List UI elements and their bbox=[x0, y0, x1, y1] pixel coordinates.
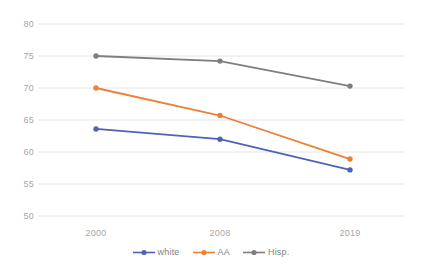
legend-swatch-hisp-icon bbox=[243, 248, 265, 257]
data-point[interactable] bbox=[93, 53, 98, 58]
legend-label-hisp: Hisp. bbox=[268, 247, 290, 257]
data-point[interactable] bbox=[93, 126, 98, 131]
gridlines bbox=[38, 24, 404, 216]
legend-swatch-aa-icon bbox=[193, 248, 215, 257]
data-point[interactable] bbox=[217, 137, 222, 142]
data-point[interactable] bbox=[93, 85, 98, 90]
legend-label-white: white bbox=[158, 247, 180, 257]
series-hisp bbox=[93, 53, 352, 88]
legend-item-white[interactable]: white bbox=[133, 247, 180, 257]
data-point[interactable] bbox=[347, 83, 352, 88]
data-point[interactable] bbox=[347, 167, 352, 172]
series-line bbox=[96, 88, 350, 159]
line-chart: 80 75 70 65 60 55 50 2000 2008 2019 whit… bbox=[0, 0, 422, 274]
data-point[interactable] bbox=[347, 156, 352, 161]
series-line bbox=[96, 129, 350, 170]
legend-item-aa[interactable]: AA bbox=[193, 247, 230, 257]
series-white bbox=[93, 126, 352, 172]
plot-area bbox=[0, 0, 422, 274]
data-point[interactable] bbox=[217, 58, 222, 63]
series-line bbox=[96, 56, 350, 86]
data-point[interactable] bbox=[217, 113, 222, 118]
legend-item-hisp[interactable]: Hisp. bbox=[243, 247, 290, 257]
series-layer bbox=[93, 53, 352, 172]
chart-legend: white AA Hisp. bbox=[0, 247, 422, 257]
series-aa bbox=[93, 85, 352, 161]
legend-swatch-white-icon bbox=[133, 248, 155, 257]
legend-label-aa: AA bbox=[218, 247, 230, 257]
